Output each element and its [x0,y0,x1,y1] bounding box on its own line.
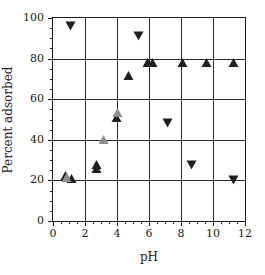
x-axis-minor-tick [101,221,102,224]
gridline-vertical [181,18,182,221]
y-axis-tick [48,140,53,141]
x-axis-tick-label: 4 [114,228,121,240]
y-axis-minor-tick [50,89,53,90]
plot-area: 024681012020406080100 [52,17,246,222]
triangle-marker-icon [148,58,158,67]
triangle-marker-icon [112,108,122,117]
y-axis-minor-tick [50,150,53,151]
y-axis-tick [48,221,53,222]
y-axis-minor-tick [50,79,53,80]
x-axis-minor-tick [61,221,62,224]
chart-figure: Percent adsorbed 024681012020406080100 p… [0,0,265,275]
x-axis-minor-tick [141,221,142,224]
y-axis-tick-label: 40 [30,134,44,146]
y-axis-tick [48,180,53,181]
y-axis-tick [48,59,53,60]
y-axis-minor-tick [50,130,53,131]
y-axis-minor-tick [50,191,53,192]
y-axis-minor-tick [50,211,53,212]
y-axis-tick-label: 80 [30,53,44,65]
x-axis-tick [245,221,246,226]
x-axis-tick-label: 8 [178,228,185,240]
triangle-marker-icon [99,135,109,144]
y-axis-title-text: Percent adsorbed [1,66,15,173]
x-axis-minor-tick [77,221,78,224]
gridline-horizontal [53,99,245,100]
triangle-marker-icon [201,58,211,67]
y-axis-minor-tick [50,28,53,29]
triangle-marker-icon [65,22,75,31]
x-axis-minor-tick [189,221,190,224]
x-axis-minor-tick [205,221,206,224]
x-axis-minor-tick [93,221,94,224]
x-axis-minor-tick [125,221,126,224]
x-axis-tick-label: 10 [206,228,220,240]
x-axis-tick [181,221,182,226]
x-axis-tick-label: 6 [146,228,153,240]
y-axis-minor-tick [50,38,53,39]
triangle-marker-icon [228,176,238,185]
triangle-marker-icon [61,173,71,182]
gridline-horizontal [53,140,245,141]
x-axis-tick-label: 2 [82,228,89,240]
x-axis-minor-tick [229,221,230,224]
y-axis-tick-label: 60 [30,93,44,105]
y-axis-minor-tick [50,160,53,161]
gridline-horizontal [53,180,245,181]
triangle-marker-icon [92,164,102,173]
x-axis-minor-tick [109,221,110,224]
y-axis-tick-label: 0 [37,215,44,227]
x-axis-tick [53,221,54,226]
x-axis-minor-tick [133,221,134,224]
triangle-marker-icon [228,58,238,67]
y-axis-minor-tick [50,170,53,171]
x-axis-tick [117,221,118,226]
triangle-marker-icon [187,161,197,170]
x-axis-minor-tick [173,221,174,224]
x-axis-minor-tick [69,221,70,224]
x-axis-minor-tick [221,221,222,224]
triangle-marker-icon [177,58,187,67]
x-axis-tick-label: 0 [50,228,57,240]
gridline-vertical [85,18,86,221]
y-axis-tick [48,18,53,19]
y-axis-minor-tick [50,120,53,121]
y-axis-minor-tick [50,48,53,49]
y-axis-tick-label: 100 [23,12,44,24]
x-axis-minor-tick [197,221,198,224]
gridline-vertical [213,18,214,221]
x-axis-tick [149,221,150,226]
x-axis-minor-tick [237,221,238,224]
y-axis-minor-tick [50,109,53,110]
x-axis-minor-tick [165,221,166,224]
y-axis-title: Percent adsorbed [0,17,16,222]
x-axis-tick-label: 12 [238,228,252,240]
y-axis-minor-tick [50,69,53,70]
y-axis-minor-tick [50,201,53,202]
x-axis-tick [213,221,214,226]
x-axis-title: pH [52,250,246,264]
x-axis-title-text: pH [140,250,158,264]
triangle-marker-icon [134,32,144,41]
x-axis-tick [85,221,86,226]
gridline-vertical [149,18,150,221]
triangle-marker-icon [163,118,173,127]
y-axis-tick [48,99,53,100]
y-axis-tick-label: 20 [30,174,44,186]
triangle-marker-icon [124,71,134,80]
x-axis-minor-tick [157,221,158,224]
